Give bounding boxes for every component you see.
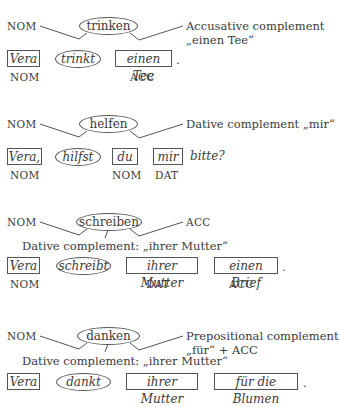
verb-ellipse-trinkt: trinkt xyxy=(55,50,101,68)
sentence-end: . xyxy=(282,261,286,274)
word-box-vera: Vera xyxy=(7,257,40,274)
word-box-du: du xyxy=(112,148,138,165)
case-label-acc: ACC xyxy=(229,278,254,291)
word-box-mir: mir xyxy=(153,148,183,165)
right-label-acc: ACC xyxy=(186,216,211,229)
left-label-nom: NOM xyxy=(7,330,36,343)
middle-label-dative: Dative complement: „ihrer Mutter“ xyxy=(22,240,228,253)
verb-ellipse-helfen: helfen xyxy=(79,115,138,133)
middle-label-dative: Dative complement: „ihrer Mutter“ xyxy=(22,355,228,368)
right-label-line1: Dative complement „mir“ xyxy=(186,118,335,131)
word-box-einen-brief: einen Brief xyxy=(214,257,278,274)
right-label-line2: „einen Tee“ xyxy=(186,34,254,47)
sentence-end: bitte? xyxy=(190,150,225,163)
word-box-vera: Vera xyxy=(7,50,40,67)
verb-ellipse-dankt: dankt xyxy=(56,373,111,391)
verb-ellipse-danken: danken xyxy=(77,327,140,345)
sentence-end: . xyxy=(176,54,180,67)
word-box-vera: Vera, xyxy=(7,148,42,165)
word-box-ihrer-mutter: ihrer Mutter xyxy=(126,373,198,390)
word-box-ihrer-mutter: ihrer Mutter xyxy=(126,257,198,274)
verb-ellipse-trinken: trinken xyxy=(79,17,138,35)
left-label-nom: NOM xyxy=(7,20,36,33)
verb-ellipse-schreibt: schreibt xyxy=(56,257,111,275)
verb-ellipse-hilfst: hilfst xyxy=(55,148,101,166)
word-box-fuer-die-blumen: für die Blumen xyxy=(214,373,298,390)
case-label-nom-du: NOM xyxy=(112,169,141,182)
case-label-dat: DAT xyxy=(146,278,169,291)
word-box-vera: Vera xyxy=(7,373,40,390)
sentence-end: . xyxy=(303,377,307,390)
case-label-nom: NOM xyxy=(10,169,39,182)
left-label-nom: NOM xyxy=(7,216,36,229)
case-label-nom: NOM xyxy=(10,71,39,84)
left-label-nom: NOM xyxy=(7,118,36,131)
word-box-einen-tee: einen Tee xyxy=(115,50,172,67)
right-label-line1: Prepositional complement xyxy=(186,330,339,343)
case-label-dat: DAT xyxy=(155,169,178,182)
verb-ellipse-schreiben: schreiben xyxy=(76,213,142,231)
right-label-line1: Accusative complement xyxy=(186,20,324,33)
case-label-nom: NOM xyxy=(10,278,39,291)
case-label-acc: ACC xyxy=(130,71,155,84)
